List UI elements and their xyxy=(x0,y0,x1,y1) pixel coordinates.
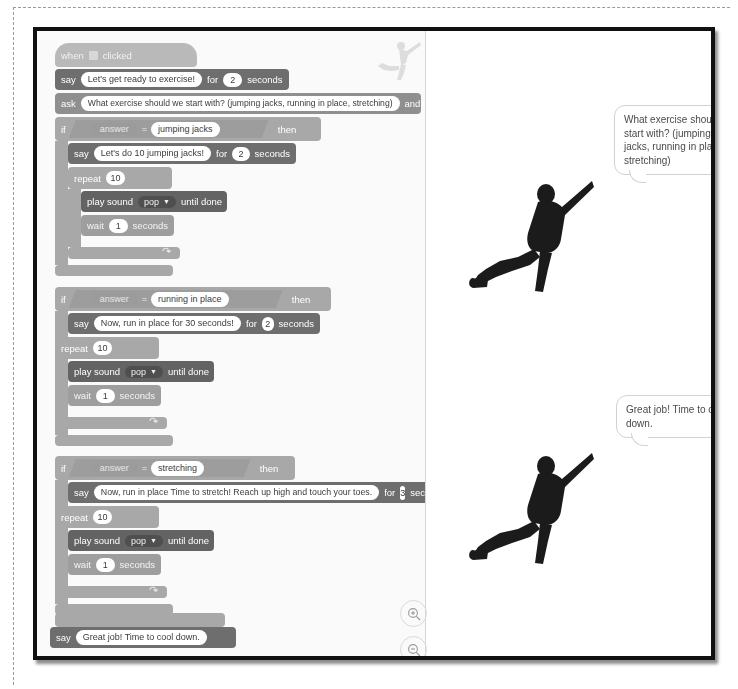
if-label: if xyxy=(61,294,66,305)
block-play-sound-until-done[interactable]: play sound pop ▼ until done xyxy=(81,191,227,212)
block-wait-seconds[interactable]: wait 1 seconds xyxy=(81,215,174,236)
say-message-input[interactable]: Let's get ready to exercise! xyxy=(81,72,202,87)
block-ask-and-wait[interactable]: ask What exercise should we start with? … xyxy=(55,93,421,114)
seconds-input[interactable]: 2 xyxy=(262,317,274,331)
block-if-then-1[interactable]: if answer = jumping jacks then say Let's… xyxy=(55,117,355,277)
seconds-input[interactable]: 3 xyxy=(400,486,405,500)
repeat-left-column xyxy=(55,359,68,417)
until-done-label: until done xyxy=(181,196,222,207)
repeat-label: repeat xyxy=(61,512,88,523)
then-label: then xyxy=(278,124,297,135)
compare-value-input[interactable]: stretching xyxy=(151,461,204,476)
repeat-times-input[interactable]: 10 xyxy=(93,510,112,524)
play-sound-label: play sound xyxy=(87,196,133,207)
wait-value-input[interactable]: 1 xyxy=(96,389,115,403)
zoom-out-button[interactable] xyxy=(400,636,427,660)
zoom-in-button[interactable] xyxy=(400,600,427,627)
code-canvas[interactable]: when clicked say Let's get ready to exer… xyxy=(37,31,425,656)
say-message-input[interactable]: Now, run in place for 30 seconds! xyxy=(94,316,241,331)
block-when-flag-clicked[interactable]: when clicked xyxy=(55,43,197,67)
clicked-label: clicked xyxy=(103,50,132,61)
seconds-label: seconds xyxy=(133,220,168,231)
sound-name: pop xyxy=(144,197,159,207)
sound-dropdown[interactable]: pop ▼ xyxy=(138,196,176,208)
sound-name: pop xyxy=(131,367,146,377)
then-label: then xyxy=(292,294,311,305)
seconds-label: seconds xyxy=(120,390,155,401)
ask-question-input[interactable]: What exercise should we start with? (jum… xyxy=(81,96,400,111)
sound-dropdown[interactable]: pop ▼ xyxy=(125,366,163,378)
speech-bubble-text: What exercise should we start with? (jum… xyxy=(624,114,715,166)
block-say-for-seconds[interactable]: say Now, run in place Time to stretch! R… xyxy=(68,482,425,503)
say-label: say xyxy=(74,318,89,329)
wait-label: wait xyxy=(74,390,91,401)
when-label: when xyxy=(61,50,84,61)
equals-operator-block[interactable]: answer = stretching xyxy=(69,459,251,477)
block-if-then-2[interactable]: if answer = running in place then say No… xyxy=(55,287,355,447)
answer-reporter[interactable]: answer xyxy=(91,293,138,305)
seconds-label: seconds xyxy=(410,487,425,498)
block-say-for-seconds[interactable]: say Now, run in place for 30 seconds! fo… xyxy=(68,313,320,334)
block-repeat-1[interactable]: ↷ repeat 10 play sound pop ▼ until done … xyxy=(68,167,298,263)
stack-connector xyxy=(55,613,225,627)
loop-arrow-icon: ↷ xyxy=(162,246,171,257)
chevron-down-icon: ▼ xyxy=(150,537,157,544)
ask-label: ask xyxy=(61,98,76,109)
play-sound-label: play sound xyxy=(74,366,120,377)
say-message-input[interactable]: Great job! Time to cool down. xyxy=(76,630,207,645)
equals-operator-block[interactable]: answer = running in place xyxy=(69,290,283,308)
block-say-for-seconds[interactable]: say Let's get ready to exercise! for 2 s… xyxy=(55,69,289,90)
exercising-person-sprite[interactable] xyxy=(468,449,594,565)
block-wait-seconds[interactable]: wait 1 seconds xyxy=(68,385,161,406)
and-wait-label: and wait xyxy=(405,98,425,109)
compare-value-input[interactable]: running in place xyxy=(151,292,229,307)
repeat-label: repeat xyxy=(74,173,101,184)
if-footer-bar xyxy=(55,435,173,446)
block-play-sound-until-done[interactable]: play sound pop ▼ until done xyxy=(68,530,214,551)
if-label: if xyxy=(61,124,66,135)
operator-symbol: = xyxy=(142,463,147,473)
repeat-times-input[interactable]: 10 xyxy=(93,341,112,355)
seconds-label: seconds xyxy=(255,148,290,159)
answer-reporter[interactable]: answer xyxy=(91,123,138,135)
say-label: say xyxy=(74,148,89,159)
block-repeat-3[interactable]: ↷ repeat 10 play sound pop ▼ until done … xyxy=(68,506,298,602)
block-say-for-seconds[interactable]: say Let's do 10 jumping jacks! for 2 sec… xyxy=(68,143,296,164)
chevron-down-icon: ▼ xyxy=(150,368,157,375)
seconds-label: seconds xyxy=(279,318,314,329)
stage[interactable]: What exercise should we start with? (jum… xyxy=(425,31,711,656)
compare-value-input[interactable]: jumping jacks xyxy=(151,122,220,137)
wait-value-input[interactable]: 1 xyxy=(109,219,128,233)
scratch-editor-screenshot: when clicked say Let's get ready to exer… xyxy=(33,27,715,660)
say-message-input[interactable]: Now, run in place Time to stretch! Reach… xyxy=(94,485,379,500)
say-message-input[interactable]: Let's do 10 jumping jacks! xyxy=(94,146,211,161)
seconds-label: seconds xyxy=(120,559,155,570)
answer-reporter[interactable]: answer xyxy=(91,462,138,474)
block-say[interactable]: say Great job! Time to cool down. xyxy=(50,627,236,648)
seconds-input[interactable]: 2 xyxy=(223,73,242,87)
exercising-person-sprite[interactable] xyxy=(468,177,594,293)
block-if-then-3[interactable]: if answer = stretching then say Now, run… xyxy=(55,456,425,616)
for-label: for xyxy=(216,148,227,159)
repeat-times-input[interactable]: 10 xyxy=(106,171,125,185)
wait-value-input[interactable]: 1 xyxy=(96,558,115,572)
for-label: for xyxy=(207,74,218,85)
sound-dropdown[interactable]: pop ▼ xyxy=(125,535,163,547)
equals-operator-block[interactable]: answer = jumping jacks xyxy=(69,120,269,138)
zoom-out-icon xyxy=(407,643,421,657)
speech-bubble-tail xyxy=(631,433,648,446)
repeat-left-column xyxy=(55,528,68,586)
block-wait-seconds[interactable]: wait 1 seconds xyxy=(68,554,161,575)
wait-label: wait xyxy=(74,559,91,570)
if-left-column xyxy=(55,141,68,265)
operator-symbol: = xyxy=(142,294,147,304)
say-label: say xyxy=(74,487,89,498)
then-label: then xyxy=(260,463,279,474)
block-repeat-2[interactable]: ↷ repeat 10 play sound pop ▼ until done … xyxy=(68,337,298,433)
green-flag-icon xyxy=(89,51,98,60)
block-play-sound-until-done[interactable]: play sound pop ▼ until done xyxy=(68,361,214,382)
until-done-label: until done xyxy=(168,535,209,546)
speech-bubble: Great job! Time to cool down. xyxy=(616,395,715,438)
seconds-input[interactable]: 2 xyxy=(232,147,249,161)
say-label: say xyxy=(56,632,71,643)
